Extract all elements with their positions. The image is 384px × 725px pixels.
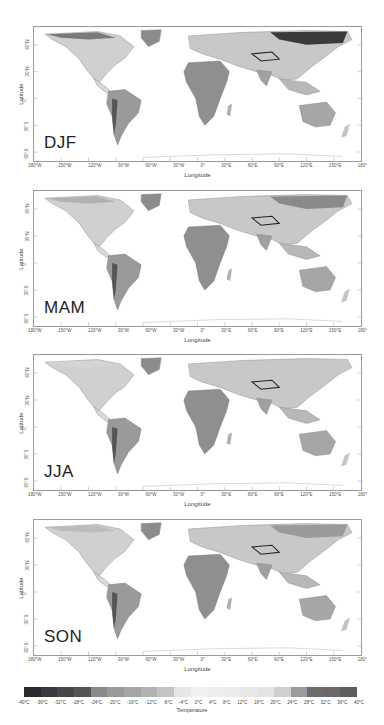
- longitude-tick: 0°: [201, 328, 205, 336]
- colorbar-segment: [41, 687, 58, 697]
- colorbar-segment: [207, 687, 224, 697]
- temperature-colorbar: [24, 687, 357, 697]
- longitude-tick: 90°E: [274, 328, 284, 336]
- longitude-tick: 120°E: [300, 328, 312, 336]
- longitude-tick: 150°W: [58, 657, 72, 665]
- longitude-tick: 150°W: [58, 492, 72, 500]
- longitude-tick: 90°E: [274, 163, 284, 171]
- colorbar-tick: 20°C: [271, 700, 281, 705]
- colorbar-segment: [191, 687, 208, 697]
- longitude-tick: 120°W: [88, 163, 102, 171]
- longitude-tick: 90°E: [274, 657, 284, 665]
- longitude-tick: 30°E: [221, 492, 231, 500]
- longitude-tick: 180°W: [28, 328, 42, 336]
- longitude-axis-label: Longitude: [184, 666, 210, 672]
- latitude-tick: 30°N: [25, 231, 30, 241]
- latitude-tick: 30°N: [25, 67, 30, 77]
- latitude-tick: 60°N: [25, 204, 30, 214]
- colorbar-title: Temperature: [177, 707, 208, 713]
- season-label: MAM: [44, 298, 85, 318]
- longitude-tick: 60°E: [248, 492, 258, 500]
- longitude-tick: 60°E: [248, 328, 258, 336]
- world-map: [34, 520, 361, 655]
- colorbar-segment: [91, 687, 108, 697]
- colorbar-tick: -36°C: [36, 700, 48, 705]
- longitude-axis-label: Longitude: [184, 337, 210, 343]
- longitude-ticks: 180°W150°W120°W90°W60°W30°W0°30°E60°E90°…: [28, 492, 367, 500]
- longitude-ticks: 180°W150°W120°W90°W60°W30°W0°30°E60°E90°…: [28, 163, 367, 171]
- longitude-tick: 30°W: [173, 492, 184, 500]
- longitude-ticks: 180°W150°W120°W90°W60°W30°W0°30°E60°E90°…: [28, 328, 367, 336]
- longitude-tick: 90°W: [118, 492, 129, 500]
- latitude-tick: 30°S: [24, 286, 29, 296]
- colorbar-tick: 36°C: [337, 700, 347, 705]
- colorbar-segment: [291, 687, 308, 697]
- colorbar-segment: [157, 687, 174, 697]
- latitude-tick: 60°N: [25, 368, 30, 378]
- colorbar-tick: -24°C: [91, 700, 103, 705]
- longitude-tick: 30°W: [173, 328, 184, 336]
- colorbar-segment: [141, 687, 158, 697]
- longitude-tick: 60°E: [248, 657, 258, 665]
- colorbar-segment: [307, 687, 324, 697]
- latitude-tick: 60°N: [25, 533, 30, 543]
- colorbar-tick: -4°C: [179, 700, 188, 705]
- colorbar-tick: 12°C: [237, 700, 247, 705]
- map-panel-mam: MAM Latitude 60°N30°N0°30°S60°S 180°W150…: [33, 190, 362, 327]
- longitude-tick: 60°W: [146, 163, 157, 171]
- longitude-tick: 150°E: [329, 328, 341, 336]
- longitude-tick: 120°E: [300, 657, 312, 665]
- longitude-ticks: 180°W150°W120°W90°W60°W30°W0°30°E60°E90°…: [28, 657, 367, 665]
- longitude-tick: 30°W: [173, 657, 184, 665]
- colorbar-tick: 8°C: [223, 700, 231, 705]
- longitude-axis-label: Longitude: [184, 501, 210, 507]
- colorbar-segment: [107, 687, 124, 697]
- colorbar-tick: -12°C: [145, 700, 157, 705]
- longitude-tick: 90°E: [274, 492, 284, 500]
- colorbar-tick: 0°C: [195, 700, 203, 705]
- colorbar-tick: 24°C: [287, 700, 297, 705]
- longitude-tick: 30°E: [221, 328, 231, 336]
- colorbar-tick: 16°C: [254, 700, 264, 705]
- longitude-tick: 90°W: [118, 657, 129, 665]
- longitude-tick: 120°W: [88, 328, 102, 336]
- longitude-tick: 180°: [358, 492, 367, 500]
- latitude-tick: 60°S: [24, 313, 29, 323]
- colorbar-segment: [324, 687, 341, 697]
- longitude-tick: 120°E: [300, 163, 312, 171]
- longitude-tick: 60°W: [146, 328, 157, 336]
- latitude-axis-label: Latitude: [18, 248, 24, 269]
- world-map: [34, 355, 361, 490]
- longitude-tick: 150°E: [329, 492, 341, 500]
- longitude-tick: 90°W: [118, 163, 129, 171]
- longitude-tick: 0°: [201, 657, 205, 665]
- latitude-tick: 60°S: [24, 477, 29, 487]
- map-panel-son: SON Latitude 60°N30°N0°30°S60°S 180°W150…: [33, 519, 362, 656]
- longitude-tick: 60°E: [248, 163, 258, 171]
- colorbar-tick: -40°C: [18, 700, 30, 705]
- map-panel-jja: JJA Latitude 60°N30°N0°30°S60°S 180°W150…: [33, 354, 362, 491]
- longitude-tick: 30°E: [221, 163, 231, 171]
- longitude-tick: 30°W: [173, 163, 184, 171]
- latitude-tick: 30°S: [24, 450, 29, 460]
- colorbar-tick: -16°C: [127, 700, 139, 705]
- longitude-tick: 150°W: [58, 328, 72, 336]
- colorbar-tick: -20°C: [109, 700, 121, 705]
- colorbar-tick: 4°C: [209, 700, 217, 705]
- colorbar-tick: -28°C: [73, 700, 85, 705]
- latitude-axis-label: Latitude: [18, 412, 24, 433]
- longitude-tick: 0°: [201, 163, 205, 171]
- longitude-tick: 180°: [358, 328, 367, 336]
- latitude-tick: 60°N: [25, 40, 30, 50]
- latitude-tick: 30°S: [24, 615, 29, 625]
- longitude-tick: 90°W: [118, 328, 129, 336]
- longitude-tick: 60°W: [146, 657, 157, 665]
- colorbar-tick: 32°C: [321, 700, 331, 705]
- colorbar-tick: -32°C: [54, 700, 66, 705]
- latitude-tick: 30°N: [25, 395, 30, 405]
- colorbar-tick: -8°C: [163, 700, 172, 705]
- longitude-tick: 60°W: [146, 492, 157, 500]
- map-panel-djf: DJF Latitude 60°N30°N0°30°S60°S 180°W150…: [33, 26, 362, 162]
- latitude-axis-label: Latitude: [18, 577, 24, 598]
- longitude-tick: 150°E: [329, 657, 341, 665]
